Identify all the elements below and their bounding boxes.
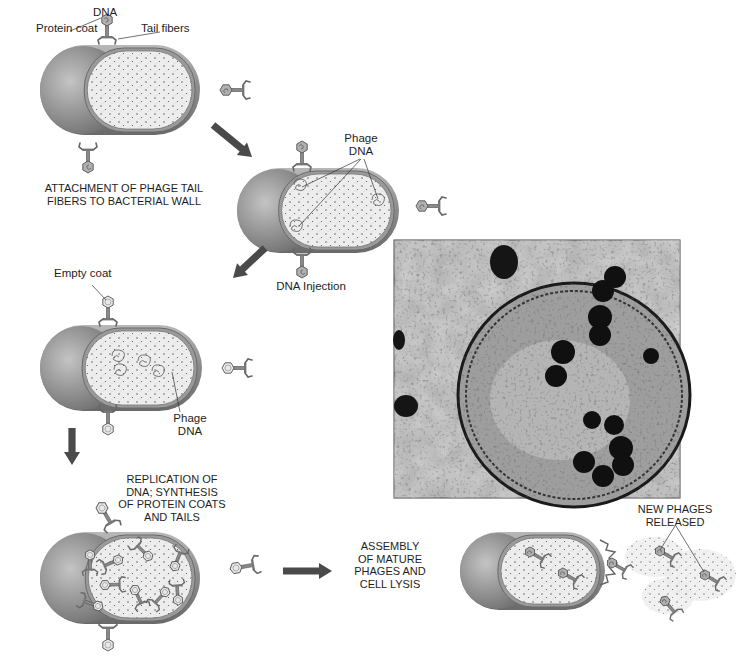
- cell-stage-attachment: [40, 45, 200, 135]
- phage-baseplate: [438, 201, 440, 211]
- micrograph-phage-5: [583, 411, 601, 429]
- caption-replication-line-2: DNA; SYNTHESIS: [117, 486, 227, 499]
- phage-tail: [241, 563, 253, 568]
- phage-baseplate: [244, 363, 246, 373]
- arrow-to-replication: [64, 428, 80, 465]
- phage-head: [229, 562, 243, 574]
- phage-tail-fibers: [621, 564, 634, 580]
- micrograph-phage-4: [545, 365, 567, 387]
- phage-baseplate: [297, 163, 307, 165]
- phage-baseplate: [103, 318, 113, 320]
- arrow-to-injection: [211, 122, 252, 157]
- label-phage-dna-stage3: Phage DNA: [170, 412, 210, 438]
- phage-baseplate: [297, 254, 307, 256]
- phage-tail: [231, 88, 243, 91]
- phage-tail: [86, 150, 89, 162]
- caption-assembly-line-2: OF MATURE: [350, 553, 430, 566]
- phage-head: [86, 550, 95, 560]
- phage-baseplate: [102, 36, 112, 38]
- phage-empty-right: [222, 359, 252, 377]
- caption-replication-line-1: REPLICATION OF: [117, 473, 227, 486]
- micrograph-debris-1: [490, 245, 518, 279]
- label-phage-dna-line-1: Phage: [339, 132, 383, 145]
- micrograph-phage-10: [592, 465, 614, 487]
- label-phage-dna3-line-1: Phage: [170, 412, 210, 425]
- micrograph-debris-3: [393, 330, 405, 350]
- label-phage-dna3-line-2: DNA: [170, 425, 210, 438]
- phage-lytic-cycle-diagram: DNA Protein coat Tail fibers ATTACHMENT …: [0, 0, 749, 660]
- phage-baseplate: [103, 627, 113, 629]
- phage-tail: [300, 152, 303, 164]
- caption-assembly: ASSEMBLY OF MATURE PHAGES AND CELL LYSIS: [350, 540, 430, 590]
- cell-stage-lysis: [460, 532, 605, 610]
- label-phage-dna-injection: Phage DNA: [339, 132, 383, 158]
- caption-assembly-line-4: CELL LYSIS: [350, 578, 430, 591]
- micrograph-phage-8: [573, 451, 595, 473]
- caption-assembly-line-3: PHAGES AND: [350, 565, 430, 578]
- caption-attachment-line-1: ATTACHMENT OF PHAGE TAIL: [37, 182, 211, 195]
- phage-head: [100, 580, 111, 589]
- phage-baseplate: [242, 85, 244, 95]
- label-new-phages-line-2: RELEASED: [630, 516, 720, 529]
- phage-baseplate: [103, 411, 113, 413]
- label-dna: DNA: [93, 6, 117, 19]
- caption-assembly-line-1: ASSEMBLY: [350, 540, 430, 553]
- phage-attached-right: [220, 81, 250, 99]
- phage-head: [103, 639, 113, 651]
- caption-attachment: ATTACHMENT OF PHAGE TAIL FIBERS TO BACTE…: [37, 182, 211, 207]
- phage-free-right: [229, 555, 262, 578]
- leader-empty-coat: [92, 285, 106, 300]
- caption-replication-line-4: AND TAILS: [117, 511, 227, 524]
- phage-baseplate: [86, 569, 95, 571]
- phage-tail: [109, 583, 119, 586]
- phage-head: [297, 141, 307, 153]
- phage-tail: [106, 628, 109, 640]
- phage-tail: [233, 366, 245, 369]
- phage-head: [297, 266, 307, 278]
- phage-head: [416, 201, 428, 211]
- micrograph-phage-2: [589, 324, 611, 346]
- phage-baseplate: [83, 149, 93, 151]
- phage-injecting-top: [293, 141, 311, 171]
- cell-stage-replication: [40, 532, 200, 624]
- micrograph-debris-2: [394, 395, 418, 417]
- arrow-to-empty-coats: [233, 245, 267, 278]
- phage-empty-top: [99, 296, 117, 326]
- phage-tail: [300, 255, 303, 267]
- label-new-phages-line-1: NEW PHAGES: [630, 503, 720, 516]
- phage-injecting-right: [416, 197, 446, 215]
- cell-stage-empty-coats: [40, 325, 202, 411]
- label-protein-coat: Protein coat: [36, 22, 97, 35]
- cell-stage-injection: [237, 168, 399, 253]
- caption-replication-line-3: OF PROTEIN COATS: [117, 498, 227, 511]
- label-new-phages-released: NEW PHAGES RELEASED: [630, 503, 720, 528]
- label-phage-dna-line-2: DNA: [339, 145, 383, 158]
- phage-tail: [106, 307, 109, 319]
- phage-head: [220, 85, 232, 95]
- arrow-to-assembly: [283, 563, 332, 579]
- cytoplasm: [87, 51, 192, 129]
- label-tail-fibers: Tail fibers: [141, 22, 190, 35]
- phage-baseplate: [118, 580, 120, 589]
- phage-head: [83, 161, 93, 173]
- phage-head: [103, 423, 113, 435]
- phage-free-bottom: [99, 621, 117, 651]
- phage-tail: [106, 412, 109, 424]
- micrograph-phage-6: [604, 415, 624, 435]
- phage-tail: [427, 204, 439, 207]
- cytoplasm: [85, 331, 194, 405]
- micrograph-phage-11: [604, 266, 626, 288]
- micrograph-phage-3: [551, 340, 575, 364]
- phage-tail: [89, 559, 92, 569]
- micrograph-phage-12: [643, 348, 659, 364]
- micrograph-speckle: [394, 240, 680, 498]
- phage-tail: [176, 586, 179, 596]
- label-empty-coat: Empty coat: [54, 267, 112, 280]
- released-cytoplasm-3: [642, 578, 694, 614]
- cytoplasm: [501, 538, 597, 604]
- caption-dna-injection: DNA Injection: [264, 280, 358, 293]
- micrograph-phage-9: [612, 454, 634, 476]
- phage-head: [222, 363, 234, 373]
- phage-tail: [105, 25, 108, 37]
- caption-attachment-line-2: FIBERS TO BACTERIAL WALL: [37, 195, 211, 208]
